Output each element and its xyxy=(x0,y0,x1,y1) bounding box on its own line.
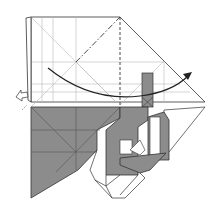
origami-diagram xyxy=(0,0,219,209)
push-arrow-icon xyxy=(16,90,28,101)
paper-right-outline xyxy=(164,107,205,152)
tick-mark xyxy=(22,105,27,110)
left-edge-flap xyxy=(26,17,31,102)
diagram-canvas xyxy=(0,0,219,209)
paper-top-layer xyxy=(31,17,205,102)
window-cutout-3 xyxy=(150,117,160,157)
window-cutout-1 xyxy=(120,140,132,154)
